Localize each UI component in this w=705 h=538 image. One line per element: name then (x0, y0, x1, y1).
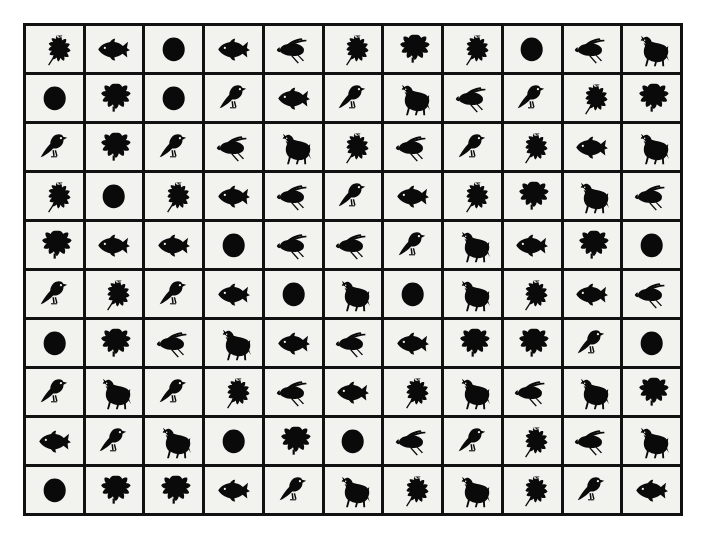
grid-cell[interactable] (265, 271, 322, 317)
grid-cell[interactable] (265, 369, 322, 415)
grid-cell[interactable] (564, 320, 621, 366)
grid-cell[interactable] (384, 418, 441, 464)
grid-cell[interactable] (265, 418, 322, 464)
grid-cell[interactable] (444, 320, 501, 366)
grid-cell[interactable] (145, 222, 202, 268)
grid-cell[interactable] (205, 26, 262, 72)
grid-cell[interactable] (444, 173, 501, 219)
grid-cell[interactable] (623, 320, 680, 366)
grid-cell[interactable] (504, 271, 561, 317)
grid-cell[interactable] (145, 369, 202, 415)
grid-cell[interactable] (86, 467, 143, 513)
grid-cell[interactable] (504, 467, 561, 513)
grid-cell[interactable] (623, 271, 680, 317)
grid-cell[interactable] (504, 418, 561, 464)
grid-cell[interactable] (86, 271, 143, 317)
grid-cell[interactable] (623, 222, 680, 268)
grid-cell[interactable] (26, 173, 83, 219)
grid-cell[interactable] (623, 467, 680, 513)
grid-cell[interactable] (145, 173, 202, 219)
grid-cell[interactable] (325, 75, 382, 121)
grid-cell[interactable] (384, 320, 441, 366)
grid-cell[interactable] (564, 467, 621, 513)
grid-cell[interactable] (504, 75, 561, 121)
grid-cell[interactable] (623, 173, 680, 219)
grid-cell[interactable] (265, 124, 322, 170)
grid-cell[interactable] (205, 222, 262, 268)
grid-cell[interactable] (325, 271, 382, 317)
grid-cell[interactable] (444, 369, 501, 415)
grid-cell[interactable] (265, 75, 322, 121)
grid-cell[interactable] (384, 369, 441, 415)
grid-cell[interactable] (325, 320, 382, 366)
grid-cell[interactable] (504, 320, 561, 366)
grid-cell[interactable] (205, 75, 262, 121)
grid-cell[interactable] (384, 124, 441, 170)
grid-cell[interactable] (205, 271, 262, 317)
grid-cell[interactable] (325, 26, 382, 72)
grid-cell[interactable] (504, 173, 561, 219)
grid-cell[interactable] (325, 173, 382, 219)
grid-cell[interactable] (564, 26, 621, 72)
grid-cell[interactable] (265, 467, 322, 513)
grid-cell[interactable] (564, 222, 621, 268)
grid-cell[interactable] (145, 75, 202, 121)
grid-cell[interactable] (444, 418, 501, 464)
grid-cell[interactable] (325, 418, 382, 464)
grid-cell[interactable] (384, 173, 441, 219)
grid-cell[interactable] (623, 418, 680, 464)
grid-cell[interactable] (265, 320, 322, 366)
grid-cell[interactable] (564, 271, 621, 317)
grid-cell[interactable] (564, 124, 621, 170)
grid-cell[interactable] (86, 75, 143, 121)
grid-cell[interactable] (86, 26, 143, 72)
grid-cell[interactable] (444, 124, 501, 170)
grid-cell[interactable] (26, 222, 83, 268)
grid-cell[interactable] (26, 418, 83, 464)
grid-cell[interactable] (384, 467, 441, 513)
grid-cell[interactable] (265, 222, 322, 268)
grid-cell[interactable] (26, 467, 83, 513)
grid-cell[interactable] (623, 26, 680, 72)
grid-cell[interactable] (564, 75, 621, 121)
grid-cell[interactable] (444, 222, 501, 268)
grid-cell[interactable] (86, 418, 143, 464)
grid-cell[interactable] (86, 222, 143, 268)
grid-cell[interactable] (325, 467, 382, 513)
grid-cell[interactable] (86, 173, 143, 219)
grid-cell[interactable] (384, 26, 441, 72)
grid-cell[interactable] (26, 271, 83, 317)
grid-cell[interactable] (564, 369, 621, 415)
grid-cell[interactable] (26, 26, 83, 72)
grid-cell[interactable] (265, 26, 322, 72)
grid-cell[interactable] (86, 369, 143, 415)
grid-cell[interactable] (26, 369, 83, 415)
grid-cell[interactable] (325, 124, 382, 170)
grid-cell[interactable] (444, 467, 501, 513)
grid-cell[interactable] (86, 124, 143, 170)
grid-cell[interactable] (26, 124, 83, 170)
grid-cell[interactable] (205, 124, 262, 170)
grid-cell[interactable] (205, 320, 262, 366)
grid-cell[interactable] (145, 26, 202, 72)
grid-cell[interactable] (205, 418, 262, 464)
grid-cell[interactable] (205, 467, 262, 513)
grid-cell[interactable] (623, 369, 680, 415)
grid-cell[interactable] (145, 271, 202, 317)
grid-cell[interactable] (145, 124, 202, 170)
grid-cell[interactable] (504, 124, 561, 170)
grid-cell[interactable] (623, 124, 680, 170)
grid-cell[interactable] (384, 271, 441, 317)
grid-cell[interactable] (145, 467, 202, 513)
grid-cell[interactable] (444, 271, 501, 317)
grid-cell[interactable] (26, 75, 83, 121)
grid-cell[interactable] (564, 418, 621, 464)
grid-cell[interactable] (444, 75, 501, 121)
grid-cell[interactable] (623, 75, 680, 121)
grid-cell[interactable] (384, 222, 441, 268)
grid-cell[interactable] (145, 418, 202, 464)
grid-cell[interactable] (145, 320, 202, 366)
grid-cell[interactable] (384, 75, 441, 121)
grid-cell[interactable] (205, 173, 262, 219)
grid-cell[interactable] (205, 369, 262, 415)
